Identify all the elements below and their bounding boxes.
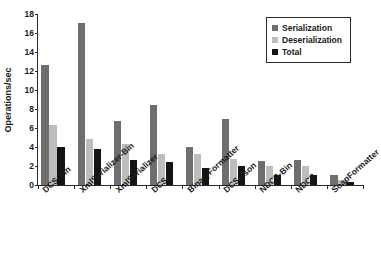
y-tick-mark	[35, 71, 39, 72]
legend-label: Total	[282, 48, 302, 57]
legend-item: Serialization	[272, 22, 342, 34]
y-tick-mark	[35, 52, 39, 53]
y-tick-label: 6	[14, 124, 34, 133]
bar-group	[78, 14, 101, 185]
y-tick-label: 16	[14, 29, 34, 38]
y-tick-mark	[35, 147, 39, 148]
x-axis-tick-labels: DCS-BinXmlSerializer-BinXmlSerializerDCS…	[37, 188, 363, 266]
y-tick-label: 8	[14, 105, 34, 114]
bar	[150, 105, 157, 185]
y-tick-label: 2	[14, 162, 34, 171]
y-axis-tick-labels: 024681012141618	[14, 14, 34, 186]
x-tick-mark	[363, 185, 364, 189]
legend-item: Total	[272, 46, 342, 58]
y-tick-label: 14	[14, 48, 34, 57]
bar-group	[186, 14, 209, 185]
legend-label: Deserialization	[282, 36, 342, 45]
y-tick-mark	[35, 109, 39, 110]
bar	[78, 23, 85, 185]
y-tick-mark	[35, 33, 39, 34]
bar-group	[41, 14, 64, 185]
legend-swatch-icon	[272, 37, 278, 43]
y-tick-label: 0	[14, 181, 34, 190]
bar	[41, 65, 48, 185]
y-tick-label: 4	[14, 143, 34, 152]
y-tick-mark	[35, 128, 39, 129]
y-tick-mark	[35, 166, 39, 167]
legend: SerializationDeserializationTotal	[266, 17, 351, 63]
y-tick-label: 18	[14, 10, 34, 19]
y-tick-label: 12	[14, 67, 34, 76]
legend-swatch-icon	[272, 25, 278, 31]
legend-label: Serialization	[282, 24, 332, 33]
y-tick-label: 10	[14, 86, 34, 95]
legend-swatch-icon	[272, 49, 278, 55]
legend-item: Deserialization	[272, 34, 342, 46]
y-axis-title-label: Operations/sec	[3, 67, 13, 132]
y-tick-mark	[35, 14, 39, 15]
y-tick-mark	[35, 90, 39, 91]
